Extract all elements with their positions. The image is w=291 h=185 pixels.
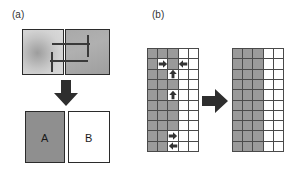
grid-cell: [274, 142, 283, 151]
grid-cell: [243, 59, 252, 68]
crosshair-horizontal-bottom: [50, 60, 88, 62]
grid-cell: [243, 142, 252, 151]
grid-cell: [168, 70, 177, 79]
grid-cell: [189, 59, 198, 68]
arrow-right-icon: [158, 59, 167, 68]
grid-cell: [168, 80, 177, 89]
grid-cell: [274, 101, 283, 110]
grid-cell: [264, 59, 273, 68]
grid-cell: [264, 142, 273, 151]
grid-cell: [233, 80, 242, 89]
grid-cell: [233, 131, 242, 140]
grid-cell: [233, 70, 242, 79]
grid-cell: [189, 111, 198, 120]
grid-cell: [168, 131, 177, 140]
grid-cell: [168, 101, 177, 110]
corrected-grid: [232, 48, 284, 152]
grid-cell: [274, 111, 283, 120]
grid-cell: [148, 70, 157, 79]
grid-cell: [148, 131, 157, 140]
grid-cell: [233, 59, 242, 68]
grid-cell: [253, 80, 262, 89]
grid-cell: [264, 131, 273, 140]
grid-cell: [158, 101, 167, 110]
grid-cell: [148, 90, 157, 99]
grid-cell: [158, 131, 167, 140]
grid-cell: [274, 59, 283, 68]
arrow-left-icon: [168, 142, 177, 151]
grid-cell: [274, 70, 283, 79]
grid-cell: [148, 111, 157, 120]
grid-cell: [189, 131, 198, 140]
grid-cell: [253, 49, 262, 58]
grid-cell: [148, 49, 157, 58]
grid-cell: [233, 90, 242, 99]
grid-cell: [179, 90, 188, 99]
right-arrow-icon: [202, 88, 228, 114]
grid-cell: [189, 70, 198, 79]
grid-cell: [179, 121, 188, 130]
grid-cell: [189, 80, 198, 89]
grid-cell: [253, 131, 262, 140]
panel-a-label: (a): [12, 10, 24, 20]
grid-cell: [274, 90, 283, 99]
grid-cell: [243, 131, 252, 140]
grid-cell: [148, 142, 157, 151]
grid-cell: [253, 121, 262, 130]
grid-cell: [179, 59, 188, 68]
grid-cell: [253, 70, 262, 79]
grid-cell: [264, 121, 273, 130]
grid-cell: [253, 59, 262, 68]
grid-cell: [243, 121, 252, 130]
grid-cell: [243, 101, 252, 110]
grid-cell: [179, 142, 188, 151]
grid-cell: [253, 142, 262, 151]
grid-cell: [158, 111, 167, 120]
grid-cell: [253, 111, 262, 120]
grid-cell: [243, 70, 252, 79]
grid-cell: [148, 101, 157, 110]
grid-cell: [168, 111, 177, 120]
grid-cell: [274, 131, 283, 140]
result-box-b-label: B: [85, 133, 92, 144]
grid-cell: [189, 121, 198, 130]
down-arrow-icon: [53, 80, 79, 106]
grid-cell: [158, 142, 167, 151]
grid-cell: [179, 70, 188, 79]
grid-cell: [168, 59, 177, 68]
grid-cell: [264, 70, 273, 79]
grid-cell: [243, 80, 252, 89]
grid-cell: [168, 121, 177, 130]
grid-cell: [158, 121, 167, 130]
grid-cell: [158, 80, 167, 89]
grid-cell: [189, 90, 198, 99]
grid-cell: [243, 49, 252, 58]
grid-cell: [264, 101, 273, 110]
grid-cell: [243, 90, 252, 99]
grid-cell: [179, 111, 188, 120]
grid-cell: [233, 111, 242, 120]
figure-root: (a) A B (b): [0, 0, 291, 185]
arrow-right-icon: [168, 132, 177, 141]
grid-cell: [233, 142, 242, 151]
grid-cell: [189, 49, 198, 58]
panel-b-label: (b): [152, 10, 164, 20]
crosshair-vertical-top: [87, 35, 89, 57]
grid-cell: [179, 80, 188, 89]
grid-cell: [264, 90, 273, 99]
source-image: [22, 29, 64, 75]
grid-cell: [233, 121, 242, 130]
grid-cell: [158, 59, 167, 68]
grid-cell: [233, 49, 242, 58]
grid-cell: [253, 101, 262, 110]
crosshair-horizontal-top: [52, 43, 90, 45]
crosshair-vertical-bottom: [51, 52, 53, 72]
grid-cell: [189, 101, 198, 110]
grid-cell: [264, 111, 273, 120]
grid-cell: [148, 59, 157, 68]
grid-cell: [148, 80, 157, 89]
grid-cell: [168, 142, 177, 151]
arrow-left-icon: [179, 59, 188, 68]
arrow-up-icon: [168, 70, 177, 79]
grid-cell: [243, 111, 252, 120]
